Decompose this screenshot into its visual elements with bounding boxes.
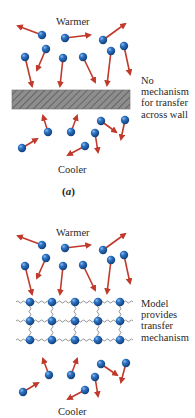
hatched-wall [12, 90, 130, 109]
cooler-label-a: Cooler [58, 164, 87, 175]
side-note-b-line: Model [141, 298, 189, 309]
side-note-b: Model provides transfer mechanism [141, 298, 189, 343]
warmer-label-a: Warmer [56, 16, 90, 27]
warm-molecule-balls-a [21, 31, 128, 62]
side-note-a-line: mechanism [141, 86, 189, 97]
side-note-b-line: mechanism [141, 332, 189, 343]
cooler-label-b: Cooler [58, 406, 87, 417]
side-note-b-line: provides [141, 309, 189, 320]
side-note-a-line: across wall [141, 109, 189, 120]
heat-transfer-diagram [0, 0, 195, 418]
panel-a-caption: (a) [62, 185, 75, 197]
side-note-a-line: No [141, 75, 189, 86]
warm-molecules-a [18, 24, 130, 86]
caption-close-paren: ) [71, 185, 75, 197]
side-note-b-line: transfer [141, 320, 189, 331]
cool-molecules-b [23, 359, 126, 399]
panel-b [16, 234, 133, 399]
cool-molecule-balls-a [18, 116, 129, 152]
side-note-a-line: for transfer [141, 97, 189, 108]
warm-molecule-balls-b [21, 241, 128, 270]
side-note-a: No mechanism for transfer across wall [141, 75, 189, 120]
cool-molecules-a [22, 116, 125, 155]
panel-a [12, 24, 130, 155]
warmer-label-b: Warmer [56, 227, 90, 238]
warm-molecules-b [18, 234, 130, 294]
